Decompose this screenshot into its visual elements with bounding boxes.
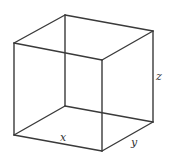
edge-bottom-right-depth: [102, 122, 153, 151]
edge-top-left-depth: [14, 15, 65, 43]
label-x: x: [60, 131, 67, 144]
label-z: z: [155, 70, 162, 83]
label-y: y: [130, 136, 138, 149]
edge-front-bottom: [14, 135, 102, 151]
edge-bottom-left-depth: [14, 106, 65, 135]
cube-edges: [14, 15, 153, 151]
cube-diagram: x y z: [0, 0, 171, 162]
edge-front-top: [14, 43, 102, 60]
edge-back-bottom: [65, 106, 153, 122]
edge-top-right-depth: [102, 31, 153, 60]
edge-back-top: [65, 15, 153, 31]
